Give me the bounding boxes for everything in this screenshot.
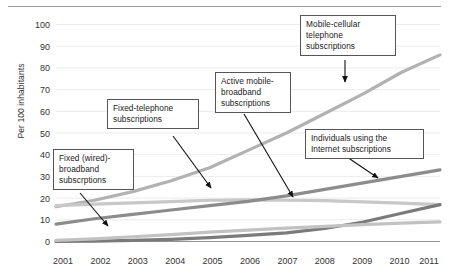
callout-line-3: subscrptions xyxy=(59,175,128,186)
callout-line-1: Individuals using the xyxy=(311,133,418,144)
callout-line-2: broadband xyxy=(59,164,128,175)
callout-line-1: Fixed-telephone xyxy=(113,103,193,114)
callout-line-1: Fixed (wired)- xyxy=(59,153,128,164)
callout-individuals-internet[interactable]: Individuals using the Internet subscript… xyxy=(305,129,424,159)
callout-line-2: telephone xyxy=(306,30,390,41)
chart-figure: Per 100 inhabitants 100 90 80 70 60 50 4… xyxy=(0,0,449,280)
callout-line-1: Mobile-cellular xyxy=(306,19,390,30)
callout-fixed-broadband[interactable]: Fixed (wired)- broadband subscrptions xyxy=(53,149,134,190)
callout-line-2: subscriptions xyxy=(113,114,193,125)
callout-line-3: subscriptions xyxy=(306,41,390,52)
callout-active-mobile-broadband[interactable]: Active mobile- broadband subscriptions xyxy=(215,72,291,113)
series-line xyxy=(56,222,440,240)
callout-line-3: subscriptions xyxy=(221,98,285,109)
callout-mobile-cellular[interactable]: Mobile-cellular telephone subscriptions xyxy=(300,15,396,56)
callout-line-2: broadband xyxy=(221,87,285,98)
callout-fixed-telephone[interactable]: Fixed-telephone subscriptions xyxy=(107,99,199,129)
callout-line-2: Internet subscriptions xyxy=(311,144,418,155)
callout-line-1: Active mobile- xyxy=(221,76,285,87)
